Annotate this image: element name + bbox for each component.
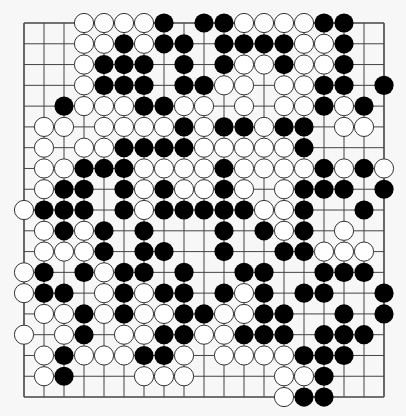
empty-intersection[interactable] — [156, 57, 172, 73]
empty-intersection[interactable] — [16, 36, 32, 52]
empty-intersection[interactable] — [276, 285, 292, 301]
empty-intersection[interactable] — [36, 389, 52, 405]
empty-intersection[interactable] — [296, 327, 312, 343]
empty-intersection[interactable] — [236, 223, 252, 239]
empty-intersection[interactable] — [36, 98, 52, 114]
empty-intersection[interactable] — [256, 181, 272, 197]
empty-intersection[interactable] — [376, 202, 392, 218]
go-board[interactable] — [0, 0, 406, 416]
empty-intersection[interactable] — [356, 223, 372, 239]
empty-intersection[interactable] — [256, 389, 272, 405]
empty-intersection[interactable] — [16, 368, 32, 384]
empty-intersection[interactable] — [56, 264, 72, 280]
empty-intersection[interactable] — [176, 15, 192, 31]
empty-intersection[interactable] — [216, 98, 232, 114]
empty-intersection[interactable] — [256, 77, 272, 93]
empty-intersection[interactable] — [356, 36, 372, 52]
empty-intersection[interactable] — [16, 119, 32, 135]
empty-intersection[interactable] — [196, 389, 212, 405]
empty-intersection[interactable] — [316, 306, 332, 322]
go-board-grid[interactable] — [0, 0, 406, 416]
empty-intersection[interactable] — [376, 264, 392, 280]
empty-intersection[interactable] — [16, 347, 32, 363]
empty-intersection[interactable] — [116, 244, 132, 260]
empty-intersection[interactable] — [36, 77, 52, 93]
empty-intersection[interactable] — [356, 368, 372, 384]
empty-intersection[interactable] — [316, 202, 332, 218]
empty-intersection[interactable] — [356, 140, 372, 156]
empty-intersection[interactable] — [356, 181, 372, 197]
empty-intersection[interactable] — [236, 389, 252, 405]
empty-intersection[interactable] — [316, 223, 332, 239]
empty-intersection[interactable] — [156, 223, 172, 239]
empty-intersection[interactable] — [196, 223, 212, 239]
empty-intersection[interactable] — [36, 57, 52, 73]
empty-intersection[interactable] — [356, 306, 372, 322]
empty-intersection[interactable] — [256, 244, 272, 260]
empty-intersection[interactable] — [376, 15, 392, 31]
empty-intersection[interactable] — [156, 264, 172, 280]
empty-intersection[interactable] — [36, 15, 52, 31]
empty-intersection[interactable] — [156, 389, 172, 405]
empty-intersection[interactable] — [16, 389, 32, 405]
empty-intersection[interactable] — [96, 181, 112, 197]
empty-intersection[interactable] — [56, 36, 72, 52]
empty-intersection[interactable] — [376, 36, 392, 52]
empty-intersection[interactable] — [196, 264, 212, 280]
empty-intersection[interactable] — [56, 57, 72, 73]
empty-intersection[interactable] — [56, 389, 72, 405]
empty-intersection[interactable] — [116, 389, 132, 405]
empty-intersection[interactable] — [236, 244, 252, 260]
empty-intersection[interactable] — [196, 36, 212, 52]
empty-intersection[interactable] — [216, 264, 232, 280]
empty-intersection[interactable] — [236, 368, 252, 384]
empty-intersection[interactable] — [376, 57, 392, 73]
empty-intersection[interactable] — [376, 327, 392, 343]
empty-intersection[interactable] — [96, 202, 112, 218]
empty-intersection[interactable] — [376, 119, 392, 135]
empty-intersection[interactable] — [376, 389, 392, 405]
empty-intersection[interactable] — [336, 202, 352, 218]
empty-intersection[interactable] — [16, 306, 32, 322]
empty-intersection[interactable] — [356, 285, 372, 301]
empty-intersection[interactable] — [176, 389, 192, 405]
empty-intersection[interactable] — [256, 368, 272, 384]
empty-intersection[interactable] — [56, 77, 72, 93]
empty-intersection[interactable] — [196, 244, 212, 260]
empty-intersection[interactable] — [16, 160, 32, 176]
empty-intersection[interactable] — [116, 368, 132, 384]
empty-intersection[interactable] — [376, 140, 392, 156]
empty-intersection[interactable] — [56, 140, 72, 156]
empty-intersection[interactable] — [336, 140, 352, 156]
empty-intersection[interactable] — [216, 389, 232, 405]
empty-intersection[interactable] — [156, 77, 172, 93]
empty-intersection[interactable] — [196, 368, 212, 384]
empty-intersection[interactable] — [356, 57, 372, 73]
empty-intersection[interactable] — [336, 389, 352, 405]
empty-intersection[interactable] — [296, 306, 312, 322]
empty-intersection[interactable] — [316, 140, 332, 156]
empty-intersection[interactable] — [376, 347, 392, 363]
empty-intersection[interactable] — [76, 389, 92, 405]
empty-intersection[interactable] — [356, 77, 372, 93]
empty-intersection[interactable] — [176, 223, 192, 239]
empty-intersection[interactable] — [356, 389, 372, 405]
empty-intersection[interactable] — [16, 223, 32, 239]
empty-intersection[interactable] — [116, 223, 132, 239]
empty-intersection[interactable] — [296, 264, 312, 280]
empty-intersection[interactable] — [376, 223, 392, 239]
empty-intersection[interactable] — [136, 389, 152, 405]
empty-intersection[interactable] — [76, 285, 92, 301]
empty-intersection[interactable] — [16, 15, 32, 31]
empty-intersection[interactable] — [336, 285, 352, 301]
empty-intersection[interactable] — [76, 119, 92, 135]
empty-intersection[interactable] — [176, 244, 192, 260]
empty-intersection[interactable] — [36, 36, 52, 52]
empty-intersection[interactable] — [256, 98, 272, 114]
empty-intersection[interactable] — [376, 368, 392, 384]
empty-intersection[interactable] — [36, 327, 52, 343]
empty-intersection[interactable] — [16, 181, 32, 197]
empty-intersection[interactable] — [276, 264, 292, 280]
empty-intersection[interactable] — [376, 244, 392, 260]
empty-intersection[interactable] — [316, 119, 332, 135]
